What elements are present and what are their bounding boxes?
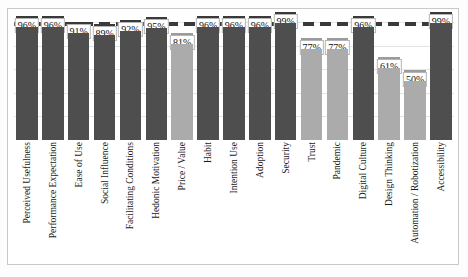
category-slot: Design Thinking: [378, 142, 400, 260]
category-slot: Adoption: [249, 142, 271, 260]
category-slot: Security: [275, 142, 297, 260]
bar-slot: 96%: [42, 22, 64, 140]
bar[interactable]: [16, 27, 38, 140]
bar-slot: 96%: [16, 22, 38, 140]
category-slot: Perceived Usefulness: [16, 142, 38, 260]
bar-slot: 91%: [68, 22, 90, 140]
bar[interactable]: [223, 27, 245, 140]
bar[interactable]: [146, 28, 168, 140]
bar-slot: 96%: [249, 22, 271, 140]
category-axis: Perceived UsefulnessPerformance Expectat…: [14, 142, 454, 260]
bar-slot: 61%: [378, 22, 400, 140]
bar[interactable]: [42, 27, 64, 140]
bar-slot: 96%: [353, 22, 375, 140]
bar-slot: 99%: [275, 22, 297, 140]
category-label: Hedonic Motivation: [151, 142, 161, 219]
category-label: Trust: [307, 142, 317, 162]
bar-chart: 96%96%91%89%92%95%81%96%96%96%99%77%77%9…: [0, 0, 468, 277]
bar[interactable]: [327, 49, 349, 140]
bar-slot: 92%: [120, 22, 142, 140]
bar[interactable]: [404, 81, 426, 140]
category-label: Accessibility: [436, 142, 446, 192]
category-slot: Pandemic: [327, 142, 349, 260]
category-slot: Hedonic Motivation: [146, 142, 168, 260]
category-label: Adoption: [255, 142, 265, 178]
category-label: Facilitating Conditions: [125, 142, 135, 229]
category-label: Automation / Robotization: [410, 142, 420, 244]
bar[interactable]: [353, 27, 375, 140]
bar[interactable]: [430, 23, 452, 140]
category-label: Price / Value: [177, 142, 187, 190]
category-slot: Accessibility: [430, 142, 452, 260]
bar-series: 96%96%91%89%92%95%81%96%96%96%99%77%77%9…: [14, 22, 454, 140]
bar-slot: 99%: [430, 22, 452, 140]
category-slot: Habit: [197, 142, 219, 260]
bar[interactable]: [275, 23, 297, 140]
category-label: Design Thinking: [384, 142, 394, 206]
category-slot: Intention Use: [223, 142, 245, 260]
category-label: Social Influence: [100, 142, 110, 204]
category-slot: Trust: [301, 142, 323, 260]
plot-area: 96%96%91%89%92%95%81%96%96%96%99%77%77%9…: [14, 22, 454, 140]
category-slot: Digital Culture: [353, 142, 375, 260]
category-slot: Price / Value: [171, 142, 193, 260]
category-label: Perceived Usefulness: [22, 142, 32, 224]
bar[interactable]: [171, 44, 193, 140]
category-label: Security: [281, 142, 291, 174]
bar-slot: 95%: [146, 22, 168, 140]
bar[interactable]: [94, 35, 116, 140]
bar[interactable]: [197, 27, 219, 140]
bar[interactable]: [68, 33, 90, 140]
category-label: Intention Use: [229, 142, 239, 193]
bar-slot: 96%: [223, 22, 245, 140]
category-slot: Performance Expectation: [42, 142, 64, 260]
category-slot: Ease of Use: [68, 142, 90, 260]
bar-slot: 89%: [94, 22, 116, 140]
category-label: Habit: [203, 142, 213, 163]
bar-slot: 77%: [327, 22, 349, 140]
category-label: Performance Expectation: [48, 142, 58, 238]
bar-slot: 50%: [404, 22, 426, 140]
bar-slot: 81%: [171, 22, 193, 140]
bar-slot: 77%: [301, 22, 323, 140]
bar[interactable]: [301, 49, 323, 140]
category-slot: Automation / Robotization: [404, 142, 426, 260]
category-slot: Facilitating Conditions: [120, 142, 142, 260]
bar[interactable]: [120, 31, 142, 140]
bar[interactable]: [249, 27, 271, 140]
category-label: Pandemic: [332, 142, 342, 179]
bar[interactable]: [378, 68, 400, 140]
bar-slot: 96%: [197, 22, 219, 140]
category-label: Ease of Use: [74, 142, 84, 187]
category-slot: Social Influence: [94, 142, 116, 260]
category-label: Digital Culture: [358, 142, 368, 199]
